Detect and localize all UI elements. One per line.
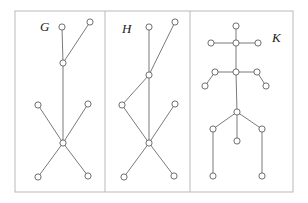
graph-vertex (85, 101, 91, 107)
graph-vertex (146, 72, 152, 78)
graph-vertex (60, 60, 66, 66)
graph-vertex (172, 19, 178, 25)
graph-vertex (85, 173, 91, 179)
graph-vertex (121, 174, 127, 180)
graph-vertex (146, 24, 152, 30)
graph-vertex (59, 24, 65, 30)
graph-vertex (255, 40, 261, 46)
graph-vertex (208, 40, 214, 46)
graph-vertex (234, 138, 240, 144)
graph-vertex (233, 40, 239, 46)
graph-vertex (60, 140, 66, 146)
frame-group (15, 11, 293, 192)
graph-vertex (233, 69, 239, 75)
figure-container: GHK (0, 0, 308, 203)
graph-vertex (234, 109, 240, 115)
panel-label-K: K (271, 30, 282, 45)
graph-vertex (263, 83, 269, 89)
graph-vertex (202, 83, 208, 89)
graph-vertex (210, 173, 216, 179)
panel-label-H: H (121, 21, 132, 36)
graph-vertex (171, 173, 177, 179)
graph-vertex (212, 69, 218, 75)
figure-frame (15, 11, 293, 192)
graph-vertex (233, 23, 239, 29)
graph-vertex (119, 102, 125, 108)
graph-vertex (259, 173, 265, 179)
graph-vertex (87, 19, 93, 25)
graph-vertex (146, 140, 152, 146)
graph-vertex (210, 126, 216, 132)
panel-label-G: G (40, 19, 50, 34)
graph-vertex (172, 101, 178, 107)
graph-vertex (35, 102, 41, 108)
graph-figure: GHK (0, 0, 308, 203)
graph-vertex (259, 126, 265, 132)
graph-vertex (35, 174, 41, 180)
graph-vertex (254, 69, 260, 75)
